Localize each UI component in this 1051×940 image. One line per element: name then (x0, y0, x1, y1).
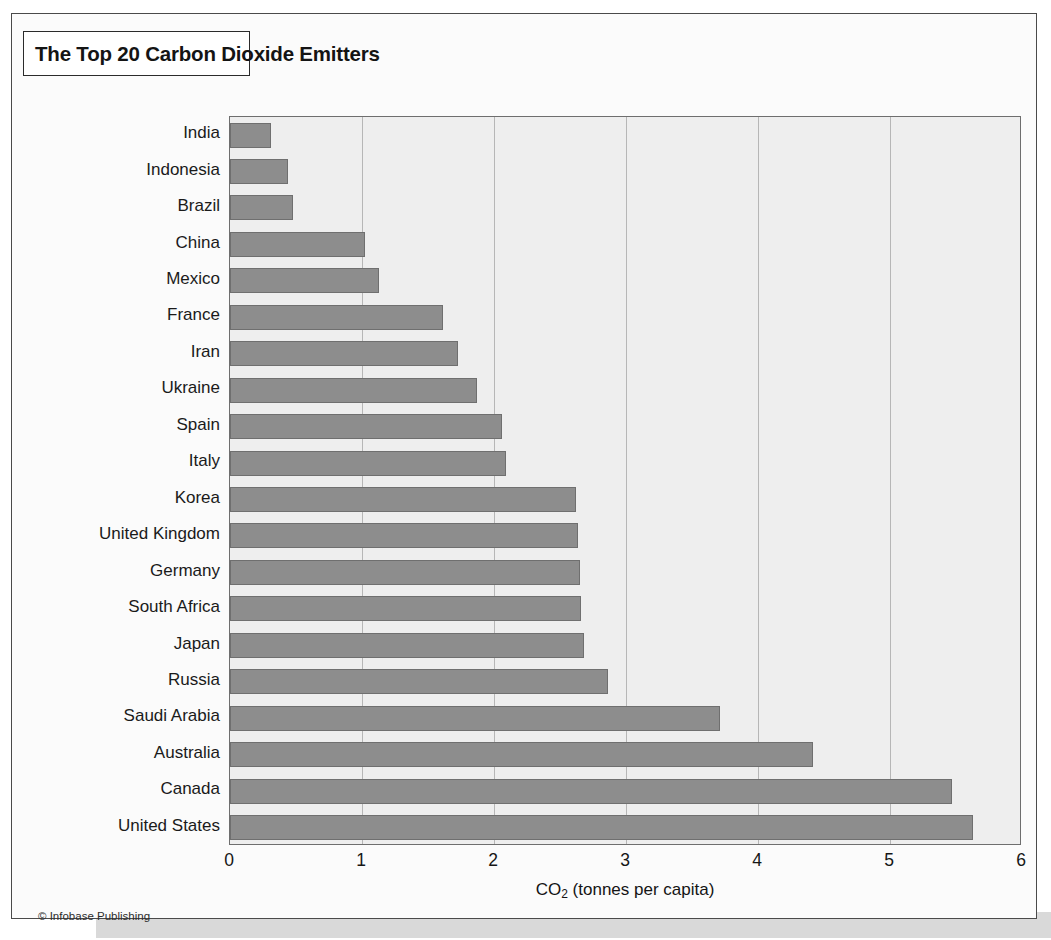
y-axis-label: Iran (20, 342, 220, 362)
y-axis-label: United States (20, 816, 220, 836)
bar-row[interactable] (230, 190, 1020, 226)
bar-row[interactable] (230, 445, 1020, 481)
x-axis-title-prefix: CO (536, 880, 562, 899)
y-axis-category-labels: IndiaIndonesiaBrazilChinaMexicoFranceIra… (12, 116, 220, 845)
bar-row[interactable] (230, 226, 1020, 262)
bar-row[interactable] (230, 773, 1020, 809)
bar-row[interactable] (230, 263, 1020, 299)
x-axis-tick-labels: 0123456 (229, 850, 1021, 876)
y-axis-label: France (20, 305, 220, 325)
bar-row[interactable] (230, 336, 1020, 372)
bar[interactable] (230, 195, 293, 220)
bar-row[interactable] (230, 700, 1020, 736)
y-axis-label: South Africa (20, 597, 220, 617)
x-axis-title-subscript: 2 (561, 887, 568, 901)
page-title: The Top 20 Carbon Dioxide Emitters (35, 42, 380, 66)
bar-row[interactable] (230, 409, 1020, 445)
y-axis-label: Germany (20, 561, 220, 581)
bar[interactable] (230, 232, 365, 257)
bar[interactable] (230, 669, 608, 694)
y-axis-label: Italy (20, 451, 220, 471)
bar-row[interactable] (230, 554, 1020, 590)
y-axis-label: Spain (20, 415, 220, 435)
bar[interactable] (230, 378, 477, 403)
bar-row[interactable] (230, 153, 1020, 189)
bar[interactable] (230, 779, 952, 804)
y-axis-label: United Kingdom (20, 524, 220, 544)
bar-row[interactable] (230, 299, 1020, 335)
x-axis-title: CO2 (tonnes per capita) (229, 880, 1021, 900)
bar[interactable] (230, 341, 458, 366)
bar[interactable] (230, 305, 443, 330)
bar[interactable] (230, 159, 288, 184)
y-axis-label: Canada (20, 779, 220, 799)
bar[interactable] (230, 123, 271, 148)
y-axis-label: Korea (20, 488, 220, 508)
y-axis-label: Japan (20, 634, 220, 654)
bar-row[interactable] (230, 810, 1020, 846)
bar-row[interactable] (230, 627, 1020, 663)
bar[interactable] (230, 414, 502, 439)
bar-row[interactable] (230, 117, 1020, 153)
y-axis-label: China (20, 233, 220, 253)
bar[interactable] (230, 268, 379, 293)
y-axis-label: Russia (20, 670, 220, 690)
bar-row[interactable] (230, 518, 1020, 554)
bar[interactable] (230, 560, 580, 585)
x-axis-title-suffix: (tonnes per capita) (568, 880, 714, 899)
bar-row[interactable] (230, 482, 1020, 518)
plot-area (229, 116, 1021, 845)
x-axis-tick: 3 (620, 850, 630, 871)
y-axis-label: Australia (20, 743, 220, 763)
publisher-credit: © Infobase Publishing (38, 910, 150, 922)
bar[interactable] (230, 451, 506, 476)
chart-card: The Top 20 Carbon Dioxide Emitters India… (11, 13, 1037, 919)
y-axis-label: Brazil (20, 196, 220, 216)
y-axis-label: Saudi Arabia (20, 706, 220, 726)
bar-row[interactable] (230, 372, 1020, 408)
y-axis-label: Mexico (20, 269, 220, 289)
bar[interactable] (230, 815, 973, 840)
title-plate: The Top 20 Carbon Dioxide Emitters (23, 31, 250, 76)
y-axis-label: Indonesia (20, 160, 220, 180)
bar[interactable] (230, 523, 578, 548)
bar[interactable] (230, 487, 576, 512)
x-axis-tick: 4 (752, 850, 762, 871)
bar-row[interactable] (230, 737, 1020, 773)
bar[interactable] (230, 596, 581, 621)
bar[interactable] (230, 633, 584, 658)
x-axis-tick: 2 (488, 850, 498, 871)
bar[interactable] (230, 742, 813, 767)
x-axis-tick: 0 (224, 850, 234, 871)
x-axis-tick: 1 (356, 850, 366, 871)
x-axis-tick: 6 (1016, 850, 1026, 871)
bar[interactable] (230, 706, 720, 731)
x-axis-tick: 5 (884, 850, 894, 871)
y-axis-label: Ukraine (20, 378, 220, 398)
bar-row[interactable] (230, 664, 1020, 700)
bar-row[interactable] (230, 591, 1020, 627)
y-axis-label: India (20, 123, 220, 143)
plot-inner (230, 117, 1020, 844)
